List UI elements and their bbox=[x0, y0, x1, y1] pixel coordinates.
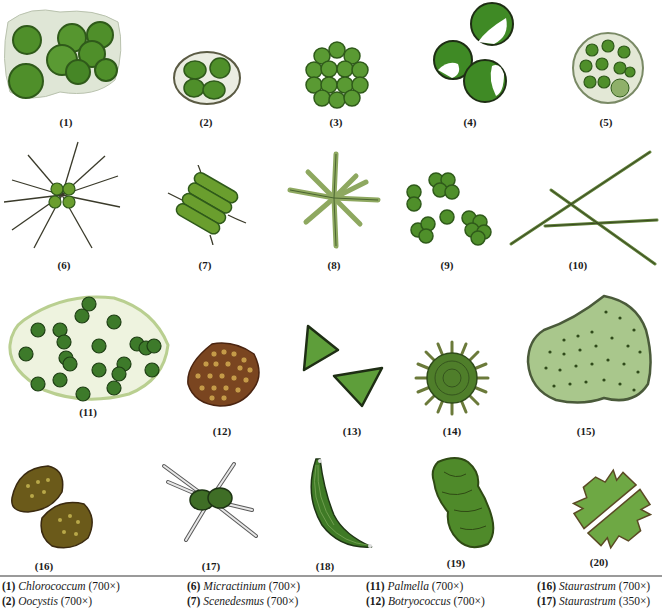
legend-entry-6: (6) Micractinium (700×) bbox=[187, 580, 300, 593]
legend-species: Botryococcus bbox=[388, 595, 451, 607]
micractinium-illustration bbox=[0, 140, 125, 250]
legend-entry-1: (1) Chlorococcum (700×) bbox=[2, 580, 120, 593]
legend-num: (12) bbox=[366, 595, 385, 607]
legend-species: Palmella bbox=[387, 580, 429, 592]
ankistrodesmus-illustration bbox=[505, 148, 660, 266]
tetraedron-illustration bbox=[296, 320, 386, 410]
legend-mag: (350×) bbox=[619, 595, 650, 607]
legend-num: (2) bbox=[2, 595, 15, 607]
figure-label-13: (13) bbox=[332, 425, 372, 437]
eremosphaera-illustration bbox=[568, 30, 648, 105]
botryococcus-illustration bbox=[184, 340, 264, 410]
legend-num: (11) bbox=[366, 580, 385, 592]
legend-entry-17: (17) Staurastrum (350×) bbox=[537, 595, 650, 608]
figure-label-20: (20) bbox=[579, 556, 619, 568]
legend-mag: (700×) bbox=[269, 580, 300, 592]
legend-species: Scenedesmus bbox=[203, 595, 264, 607]
micrasterias-lobed-illustration bbox=[426, 452, 502, 552]
legend-entry-11: (11) Palmella (700×) bbox=[366, 580, 463, 593]
pediastrum-plate-illustration bbox=[524, 290, 654, 410]
figure-label-14: (14) bbox=[432, 425, 472, 437]
legend-num: (6) bbox=[187, 580, 200, 592]
figure-label-5: (5) bbox=[586, 116, 626, 128]
oocystis-illustration bbox=[170, 48, 245, 108]
figure-label-4: (4) bbox=[450, 116, 490, 128]
legend-species: Staurastrum bbox=[559, 595, 616, 607]
coelastrum-colony-illustration bbox=[302, 40, 372, 110]
figure-label-11: (11) bbox=[68, 406, 108, 418]
legend-entry-12: (12) Botryococcus (700×) bbox=[366, 595, 485, 608]
figure-label-16: (16) bbox=[24, 560, 64, 572]
figure-label-19: (19) bbox=[436, 557, 476, 569]
figure-label-7: (7) bbox=[185, 259, 225, 271]
figure-label-2: (2) bbox=[186, 116, 226, 128]
legend-entry-7: (7) Scenedesmus (700×) bbox=[187, 595, 298, 608]
staurastrum-700x-illustration bbox=[8, 462, 98, 550]
legend-num: (16) bbox=[537, 580, 556, 592]
figure-label-1: (1) bbox=[46, 116, 86, 128]
legend-entry-2: (2) Oocystis (700×) bbox=[2, 595, 92, 608]
figure-label-17: (17) bbox=[191, 560, 231, 572]
legend-mag: (700×) bbox=[454, 595, 485, 607]
legend-mag: (700×) bbox=[432, 580, 463, 592]
scenedesmus-illustration bbox=[166, 165, 248, 245]
legend-entry-16: (16) Staurastrum (700×) bbox=[537, 580, 650, 593]
chlorella-illustration bbox=[428, 0, 528, 110]
legend-mag: (700×) bbox=[267, 595, 298, 607]
crucigenia-illustration bbox=[400, 170, 500, 250]
legend-species: Staurastrum bbox=[559, 580, 616, 592]
figure-label-10: (10) bbox=[558, 259, 598, 271]
chlorococcum-illustration bbox=[0, 0, 130, 110]
legend-mag: (700×) bbox=[619, 580, 650, 592]
closterium-illustration bbox=[300, 455, 380, 555]
figure-label-8: (8) bbox=[314, 259, 354, 271]
palmella-illustration bbox=[4, 290, 172, 402]
legend-species: Chlorococcum bbox=[18, 580, 85, 592]
caption-divider bbox=[0, 575, 662, 577]
figure-label-9: (9) bbox=[427, 259, 467, 271]
legend-num: (7) bbox=[187, 595, 200, 607]
figure-label-18: (18) bbox=[305, 560, 345, 572]
legend-mag: (700×) bbox=[88, 580, 119, 592]
micrasterias-illustration bbox=[572, 468, 652, 550]
actinastrum-illustration bbox=[286, 150, 381, 250]
legend-num: (17) bbox=[537, 595, 556, 607]
pediastrum-spiny-illustration bbox=[414, 340, 490, 416]
figure-label-3: (3) bbox=[316, 116, 356, 128]
legend-species: Micractinium bbox=[203, 580, 266, 592]
staurastrum-350x-illustration bbox=[160, 460, 260, 542]
figure-label-6: (6) bbox=[44, 259, 84, 271]
figure-label-12: (12) bbox=[202, 425, 242, 437]
legend-num: (1) bbox=[2, 580, 15, 592]
figure-label-15: (15) bbox=[566, 425, 606, 437]
legend-species: Oocystis bbox=[18, 595, 58, 607]
legend-mag: (700×) bbox=[61, 595, 92, 607]
